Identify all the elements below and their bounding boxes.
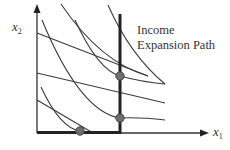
x-axis-arrow-icon (200, 130, 209, 137)
y-axis-arrow-icon (34, 4, 41, 13)
equilibrium-point-high (116, 72, 124, 80)
annotation-line-1: Income (137, 24, 174, 37)
budget-line-2 (37, 73, 165, 103)
indifference-curve-low (41, 87, 80, 131)
income-expansion-path (37, 14, 121, 134)
diagram-canvas (0, 0, 230, 150)
equilibrium-point-mid (116, 114, 124, 122)
budget-line-1 (37, 33, 148, 76)
budget-line-3 (37, 100, 93, 133)
x-axis-label-subscript: 1 (219, 132, 223, 141)
equilibrium-point-corner (76, 127, 84, 135)
y-axis-label: x2 (12, 20, 22, 36)
annotation-line-2: Expansion Path (137, 39, 215, 52)
y-axis-label-subscript: 2 (18, 27, 22, 36)
equilibrium-points (76, 72, 124, 135)
indifference-curve-high (61, 4, 148, 76)
x-axis-label: x1 (213, 125, 223, 141)
